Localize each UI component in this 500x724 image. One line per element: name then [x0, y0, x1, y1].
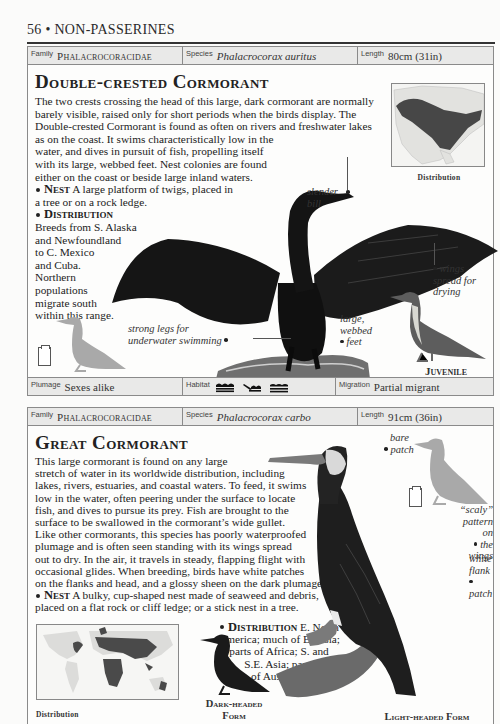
world-map-icon — [37, 625, 179, 700]
species-value: Phalacrocorax auritus — [217, 50, 317, 62]
family-label: Family — [31, 49, 53, 58]
leader-line — [347, 157, 348, 190]
migration-label: Migration — [339, 380, 370, 389]
light-form-caption: Light-headed Form — [362, 711, 492, 722]
distribution-heading: Distribution — [44, 207, 113, 221]
family-value: Phalacrocoracidae — [57, 50, 152, 62]
length-cell: Length 91cm (36in) — [358, 408, 493, 425]
callout-dot — [346, 190, 350, 194]
leader-line — [434, 243, 435, 265]
callout-webbed-feet: large, webbed feet — [340, 313, 372, 348]
plumage-value: Sexes alike — [65, 381, 115, 393]
species-value: Phalacrocorax carbo — [217, 411, 311, 423]
bullet-icon — [220, 625, 224, 629]
info-row-top: Family Phalacrocoracidae Species Phalacr… — [28, 408, 493, 426]
species-label: Species — [186, 410, 213, 419]
migration-cell: Migration Partial migrant — [336, 378, 493, 395]
dark-headed-form-illustration — [200, 630, 270, 698]
distribution-map-world — [36, 624, 179, 700]
scale-reference-book-icon — [38, 347, 51, 366]
bullet-icon — [36, 213, 40, 217]
habitat-icons — [214, 381, 304, 393]
dark-form-caption: Dark-headed Form — [194, 698, 274, 722]
family-label: Family — [31, 410, 53, 419]
plumage-label: Plumage — [31, 380, 61, 389]
description-line: Double-crested Cormorant is found as oft… — [35, 120, 365, 133]
nest-heading: Nest — [44, 182, 70, 196]
nest-heading: Nest — [44, 588, 70, 602]
entry-double-crested-cormorant: Family Phalacrocoracidae Species Phalacr… — [27, 46, 494, 396]
callout-slender-bill: slender bill — [307, 186, 338, 209]
description-line: The two crests crossing the head of this… — [35, 95, 365, 108]
entry-great-cormorant: Family Phalacrocoracidae Species Phalacr… — [27, 407, 494, 724]
species-title: Great Cormorant — [35, 432, 188, 454]
callout-bare-patch: bare patch — [384, 432, 414, 455]
marsh-icon — [243, 384, 261, 392]
callout-strong-legs: strong legs for underwater swimming — [128, 323, 231, 346]
scale-silhouette-icon — [56, 315, 126, 373]
length-value: 80cm (31in) — [388, 50, 442, 62]
family-cell: Family Phalacrocoracidae — [28, 408, 183, 425]
description-line: barely visible, raised only for short pe… — [35, 108, 365, 121]
juvenile-caption: Juvenile — [406, 365, 486, 377]
info-row-top: Family Phalacrocoracidae Species Phalacr… — [28, 47, 493, 65]
species-cell: Species Phalacrocorax carbo — [183, 408, 358, 425]
migration-value: Partial migrant — [374, 381, 440, 393]
family-cell: Family Phalacrocoracidae — [28, 47, 183, 64]
length-value: 91cm (36in) — [388, 411, 442, 423]
juvenile-cormorant-illustration — [388, 287, 488, 365]
habitat-cell: Habitat — [183, 378, 336, 395]
leader-line — [253, 338, 291, 339]
habitat-label: Habitat — [186, 380, 210, 389]
scale-silhouette-icon — [414, 436, 488, 508]
bullet-icon — [36, 188, 40, 192]
wave-water-icon — [216, 383, 234, 392]
running-head: 56 • NON-PASSERINES — [27, 22, 175, 38]
bullet-icon — [36, 594, 40, 598]
map-caption: Distribution — [36, 710, 79, 719]
length-label: Length — [361, 410, 384, 419]
length-label: Length — [361, 49, 384, 58]
family-value: Phalacrocoracidae — [57, 411, 152, 423]
info-row-bottom: Plumage Sexes alike Habitat Migration Pa… — [28, 377, 493, 395]
callout-white-flank: white flank patch — [469, 553, 493, 599]
lake-lines-icon — [270, 384, 288, 392]
species-label: Species — [186, 49, 213, 58]
header-rule — [27, 42, 495, 44]
species-cell: Species Phalacrocorax auritus — [183, 47, 358, 64]
plumage-cell: Plumage Sexes alike — [28, 378, 183, 395]
species-title: Double-crested Cormorant — [35, 71, 269, 93]
length-cell: Length 80cm (31in) — [358, 47, 493, 64]
